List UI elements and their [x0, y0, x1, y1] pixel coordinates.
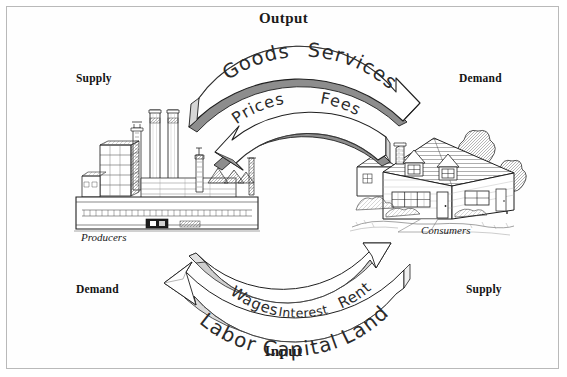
diagram-canvas: Output Input Supply Demand Demand Supply [0, 0, 567, 377]
flow-arrows-layer: Goods Services Prices Fees [0, 0, 567, 377]
